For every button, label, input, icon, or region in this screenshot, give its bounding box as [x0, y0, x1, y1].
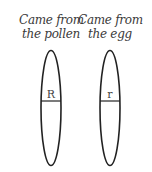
egg-allele-label: r	[107, 88, 113, 101]
pollen-chromosome: R	[41, 51, 61, 166]
pollen-chromosome-outline	[41, 51, 61, 166]
egg-chromosome-outline	[100, 51, 120, 166]
egg-chromosome: r	[100, 51, 120, 166]
pollen-allele-label: R	[47, 88, 56, 101]
chromosome-diagram: R r	[0, 0, 152, 172]
